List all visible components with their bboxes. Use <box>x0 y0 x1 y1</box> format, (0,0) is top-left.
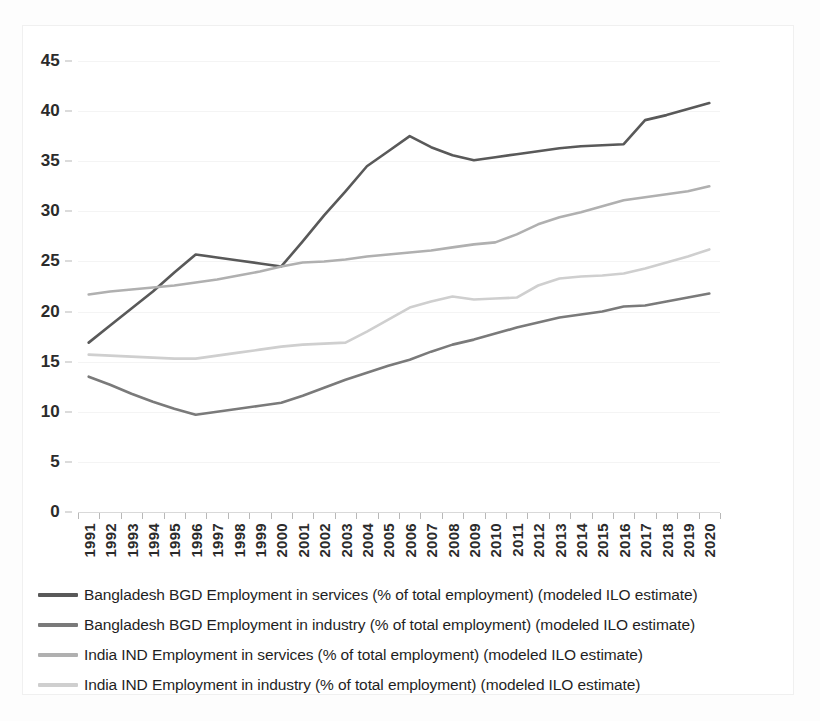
y-tick-label: 15 <box>41 352 60 372</box>
x-tick-label: 1993 <box>124 523 141 558</box>
x-tick-label: 2018 <box>659 523 676 558</box>
y-tick-label: 35 <box>41 151 60 171</box>
x-tick-mark <box>99 513 100 519</box>
y-tick-mark <box>65 61 72 62</box>
y-axis: 051015202530354045 <box>0 0 78 520</box>
x-tick-label: 1991 <box>81 523 98 558</box>
x-tick-label: 2007 <box>423 523 440 558</box>
x-tick-mark <box>634 513 635 519</box>
legend-item-label: Bangladesh BGD Employment in services (%… <box>84 586 698 604</box>
x-tick-label: 2009 <box>466 523 483 558</box>
y-tick-mark <box>65 461 72 462</box>
x-tick-label: 2003 <box>338 523 355 558</box>
x-tick-label: 1992 <box>102 523 119 558</box>
x-tick-label: 2004 <box>359 523 376 558</box>
y-tick-label: 25 <box>41 251 60 271</box>
x-tick-mark <box>78 513 79 519</box>
x-tick-mark <box>249 513 250 519</box>
x-tick-label: 2013 <box>552 523 569 558</box>
x-tick-mark <box>485 513 486 519</box>
x-tick-mark <box>356 513 357 519</box>
series-line-2 <box>89 186 710 294</box>
x-tick-label: 2010 <box>487 523 504 558</box>
x-tick-mark <box>613 513 614 519</box>
x-tick-mark <box>592 513 593 519</box>
x-tick-label: 1994 <box>145 523 162 558</box>
y-tick-label: 0 <box>50 502 60 522</box>
x-tick-label: 2005 <box>380 523 397 558</box>
x-tick-mark <box>656 513 657 519</box>
x-tick-label: 1998 <box>231 523 248 558</box>
x-tick-label: 2002 <box>316 523 333 558</box>
x-tick-mark <box>463 513 464 519</box>
x-tick-mark <box>399 513 400 519</box>
x-tick-mark <box>442 513 443 519</box>
x-tick-mark <box>228 513 229 519</box>
x-tick-label: 2011 <box>509 523 526 557</box>
x-tick-mark <box>570 513 571 519</box>
chart-container: 051015202530354045 199119921993199419951… <box>0 0 820 721</box>
y-tick-label: 20 <box>41 302 60 322</box>
x-tick-label: 2001 <box>295 523 312 558</box>
legend-item-0[interactable]: Bangladesh BGD Employment in services (%… <box>38 580 778 610</box>
x-tick-mark <box>185 513 186 519</box>
legend-swatch-icon <box>38 593 78 597</box>
y-tick-label: 30 <box>41 201 60 221</box>
y-tick-label: 10 <box>41 402 60 422</box>
x-tick-mark <box>313 513 314 519</box>
legend-item-label: Bangladesh BGD Employment in industry (%… <box>84 616 695 634</box>
x-tick-mark <box>549 513 550 519</box>
x-tick-label: 2006 <box>402 523 419 558</box>
legend-item-label: India IND Employment in services (% of t… <box>84 646 643 664</box>
x-tick-mark <box>378 513 379 519</box>
x-tick-label: 2012 <box>530 523 547 558</box>
x-tick-label: 1999 <box>252 523 269 558</box>
x-tick-mark <box>206 513 207 519</box>
x-tick-mark <box>527 513 528 519</box>
x-tick-label: 2008 <box>445 523 462 558</box>
series-line-0 <box>89 103 710 343</box>
y-tick-mark <box>65 411 72 412</box>
plot-area <box>78 61 720 512</box>
x-tick-mark <box>699 513 700 519</box>
x-tick-mark <box>420 513 421 519</box>
x-tick-mark <box>720 513 721 519</box>
x-tick-mark <box>335 513 336 519</box>
y-tick-label: 5 <box>50 452 60 472</box>
y-tick-mark <box>65 211 72 212</box>
x-tick-label: 1995 <box>166 523 183 558</box>
x-tick-mark <box>121 513 122 519</box>
x-tick-label: 2014 <box>573 523 590 558</box>
y-tick-mark <box>65 311 72 312</box>
x-tick-mark <box>292 513 293 519</box>
legend-swatch-icon <box>38 653 78 657</box>
x-tick-mark <box>677 513 678 519</box>
x-tick-label: 2020 <box>701 523 718 558</box>
chart-legend: Bangladesh BGD Employment in services (%… <box>38 580 778 700</box>
series-lines <box>78 61 720 512</box>
x-tick-mark <box>271 513 272 519</box>
x-tick-label: 1996 <box>188 523 205 558</box>
legend-item-3[interactable]: India IND Employment in industry (% of t… <box>38 670 778 700</box>
x-tick-label: 2017 <box>637 523 654 558</box>
y-tick-mark <box>65 512 72 513</box>
legend-swatch-icon <box>38 623 78 627</box>
y-tick-mark <box>65 261 72 262</box>
legend-item-1[interactable]: Bangladesh BGD Employment in industry (%… <box>38 610 778 640</box>
x-tick-mark <box>142 513 143 519</box>
y-tick-mark <box>65 161 72 162</box>
x-tick-label: 2000 <box>273 523 290 558</box>
x-tick-label: 2016 <box>616 523 633 558</box>
y-tick-mark <box>65 361 72 362</box>
y-tick-mark <box>65 111 72 112</box>
legend-item-label: India IND Employment in industry (% of t… <box>84 676 640 694</box>
legend-swatch-icon <box>38 683 78 687</box>
y-tick-label: 40 <box>41 101 60 121</box>
y-tick-label: 45 <box>41 51 60 71</box>
x-tick-label: 2019 <box>680 523 697 558</box>
x-tick-label: 2015 <box>594 523 611 558</box>
legend-item-2[interactable]: India IND Employment in services (% of t… <box>38 640 778 670</box>
x-tick-mark <box>506 513 507 519</box>
x-tick-mark <box>164 513 165 519</box>
x-tick-label: 1997 <box>209 523 226 558</box>
